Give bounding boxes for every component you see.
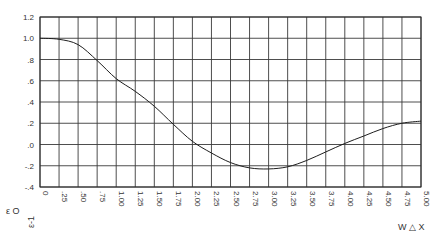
y-tick-label: 1.2 [23,13,35,22]
x-tick-label: 0 [41,191,50,196]
x-tick-label: 3.50 [308,191,317,207]
y-tick-label: .4 [27,98,34,107]
x-tick-label: 5.00 [422,191,431,207]
x-tick-label: 1.00 [117,191,126,207]
corner-label-left: ε O [6,206,20,216]
x-tick-label: 4.25 [365,191,374,207]
y-tick-label: .0 [27,141,34,150]
x-tick-label: 1.75 [174,191,183,207]
y-tick-label: -.2 [25,162,35,171]
x-tick-label: 3.25 [289,191,298,207]
x-tick-label: .25 [60,191,69,203]
line-chart: 1.21.0.8.6.4.2.0-.2-.4 0.25.50.751.001.2… [0,0,443,237]
y-tick-label: 1.0 [23,34,35,43]
y-tick-label: .2 [27,119,34,128]
x-axis-label: W △ X [398,222,425,232]
x-tick-label: 4.50 [384,191,393,207]
corner-label-rotated: ε-1 [26,216,36,228]
x-tick-label: 4.75 [403,191,412,207]
y-tick-label: .8 [27,56,34,65]
x-tick-label: 2.50 [232,191,241,207]
x-tick-labels: 0.25.50.751.001.251.501.752.002.252.502.… [41,191,431,207]
x-tick-label: 4.00 [346,191,355,207]
x-tick-label: 2.75 [251,191,260,207]
x-tick-label: .50 [79,191,88,203]
y-tick-label: -.4 [25,183,35,192]
x-tick-label: 1.50 [155,191,164,207]
y-tick-label: .6 [27,77,34,86]
x-tick-label: 3.75 [327,191,336,207]
x-tick-label: .75 [98,191,107,203]
x-tick-label: 2.25 [212,191,221,207]
x-tick-label: 1.25 [136,191,145,207]
x-tick-label: 2.00 [193,191,202,207]
x-tick-label: 3.00 [270,191,279,207]
y-tick-labels: 1.21.0.8.6.4.2.0-.2-.4 [23,13,35,192]
